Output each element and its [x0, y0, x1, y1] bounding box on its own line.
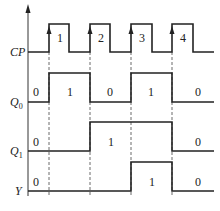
timing-diagram: CP 1 2 3 4 Q0 0 1 0 1 0 Q1 0 1 0 Y 0 1 0	[0, 0, 220, 211]
q0-label: Q0	[10, 95, 23, 111]
pulse-number: 1	[57, 31, 63, 45]
svg-text:1: 1	[108, 135, 114, 149]
svg-text:1: 1	[149, 175, 155, 189]
rising-edge-arrow-icon	[170, 26, 175, 34]
svg-text:1: 1	[148, 85, 154, 99]
signal-y: Y 0 1 0	[15, 162, 214, 198]
rising-edge-arrow-icon	[47, 26, 52, 34]
cp-label: CP	[10, 45, 26, 59]
signal-cp: CP 1 2 3 4	[10, 24, 214, 59]
pulse-number: 2	[98, 31, 104, 45]
svg-text:0: 0	[195, 85, 201, 99]
rising-edge-arrow-icon	[129, 26, 134, 34]
svg-text:0: 0	[195, 135, 201, 149]
svg-text:0: 0	[107, 85, 113, 99]
q1-label: Q1	[10, 144, 23, 160]
pulse-number: 4	[180, 31, 186, 45]
svg-text:1: 1	[67, 85, 73, 99]
svg-text:0: 0	[195, 175, 201, 189]
svg-text:0: 0	[33, 85, 39, 99]
pulse-number: 3	[139, 31, 145, 45]
rising-edge-arrow-icon	[88, 26, 93, 34]
axis-arrow-icon	[26, 4, 31, 13]
svg-text:0: 0	[33, 135, 39, 149]
svg-text:0: 0	[33, 175, 39, 189]
y-label: Y	[15, 184, 23, 198]
signal-q1: Q1 0 1 0	[10, 122, 214, 160]
signal-q0: Q0 0 1 0 1 0	[10, 73, 214, 111]
